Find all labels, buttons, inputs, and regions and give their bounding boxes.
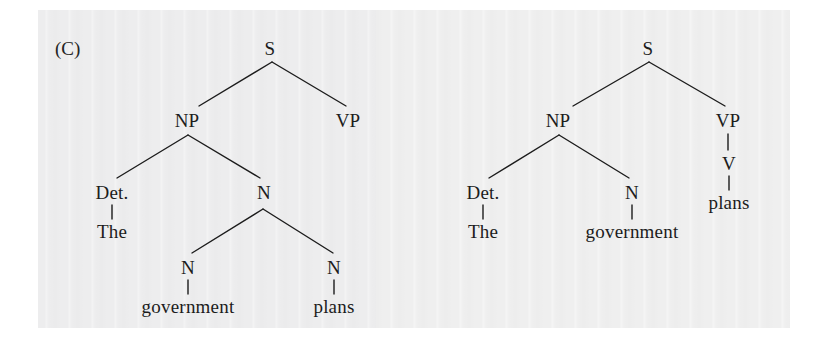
tree-left-branches	[112, 62, 346, 294]
tree-leaf-l-gov: government	[142, 297, 235, 316]
tree-node-l-vp: VP	[336, 111, 361, 130]
tree-node-l-n1: N	[181, 258, 195, 277]
tree-branch-L-S-to-L-VP	[272, 62, 346, 106]
tree-branch-layer	[0, 0, 818, 345]
tree-branch-L-NP-to-L-N	[188, 135, 260, 178]
tree-node-r-s: S	[643, 39, 654, 58]
tree-branch-L-N-to-L-N1	[192, 209, 263, 253]
figure-label: (C)	[55, 39, 80, 58]
tree-branch-L-S-to-L-NP	[199, 62, 272, 106]
tree-node-r-det: Det.	[467, 183, 500, 202]
tree-branch-R-S-to-R-VP	[649, 62, 725, 106]
tree-node-r-np: NP	[546, 111, 571, 130]
tree-leaf-r-the: The	[468, 222, 498, 241]
tree-node-l-n2: N	[327, 258, 341, 277]
tree-branch-R-NP-to-R-Det	[489, 135, 559, 178]
tree-node-r-vp: VP	[716, 111, 741, 130]
tree-leaf-l-the: The	[97, 222, 127, 241]
tree-node-l-np: NP	[175, 111, 200, 130]
tree-leaf-l-plans: plans	[313, 297, 354, 316]
tree-branch-L-NP-to-L-Det	[117, 135, 188, 178]
figure-canvas: (C) SNPVPDet.NTheNNgovernmentplans SNPVP…	[0, 0, 818, 345]
tree-branch-R-S-to-R-NP	[573, 62, 649, 106]
tree-leaf-r-plans: plans	[708, 193, 749, 212]
tree-node-l-n: N	[257, 183, 271, 202]
tree-right-branches	[483, 62, 729, 219]
tree-node-l-det: Det.	[96, 183, 129, 202]
tree-branch-R-NP-to-R-N	[559, 135, 629, 178]
tree-leaf-r-gov: government	[586, 222, 679, 241]
tree-node-r-v: V	[722, 154, 736, 173]
tree-node-l-s: S	[265, 39, 276, 58]
tree-node-r-n: N	[625, 183, 639, 202]
tree-branch-L-N-to-L-N2	[263, 209, 333, 253]
